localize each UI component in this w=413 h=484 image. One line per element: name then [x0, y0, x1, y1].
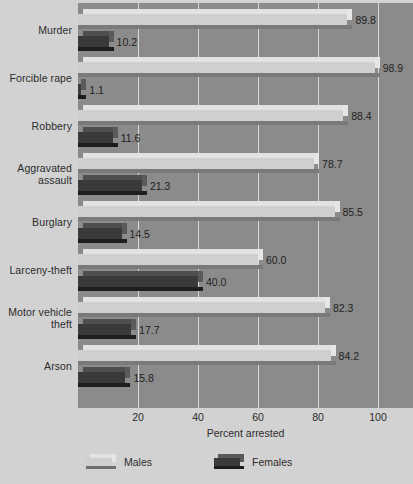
bar-top-face [83, 319, 136, 324]
bar-shadow [78, 361, 336, 365]
bar-shadow [78, 121, 348, 125]
category-label-line1: Forcible rape [0, 72, 72, 84]
bar-top-face [83, 9, 352, 14]
x-tick-label-80: 80 [298, 411, 338, 423]
x-tick-label-100: 100 [358, 411, 398, 423]
category-label-6: Motor vehicletheft [0, 306, 72, 330]
value-label-males-2: 88.4 [351, 111, 371, 122]
bar-top-face [83, 367, 130, 372]
bar-chart-figure: 89.810.298.91.188.411.678.721.385.514.56… [0, 0, 413, 484]
category-label-line1: Burglary [0, 216, 72, 228]
bar-shadow [78, 239, 127, 243]
bar-top-face [83, 297, 330, 302]
value-label-females-4: 14.5 [130, 229, 150, 240]
legend-label-females: Females [252, 456, 292, 468]
bar-top-face [83, 223, 127, 228]
bar-top-face [83, 249, 263, 254]
bar-females-3 [78, 180, 142, 191]
swatch-shadow [214, 466, 244, 469]
bar-end-cap [325, 297, 330, 308]
value-label-males-1: 98.9 [383, 63, 403, 74]
value-label-males-4: 85.5 [343, 207, 363, 218]
category-label-line2: assault [0, 174, 72, 186]
bar-end-cap [331, 345, 336, 356]
bar-shadow [78, 73, 380, 77]
bar-shadow [78, 95, 86, 99]
bar-shadow [78, 335, 136, 339]
bar-face [78, 302, 325, 313]
bar-males-6 [78, 302, 325, 313]
bar-males-5 [78, 254, 258, 265]
bar-males-2 [78, 110, 343, 121]
category-label-3: Aggravatedassault [0, 162, 72, 186]
bar-shadow [78, 287, 203, 291]
bar-end-cap [314, 153, 319, 164]
bar-top-face [83, 271, 203, 276]
value-label-males-7: 84.2 [339, 351, 359, 362]
bar-top-face [83, 201, 340, 206]
bar-shadow [78, 313, 330, 317]
bar-end-cap [347, 9, 352, 20]
bar-shadow [78, 191, 147, 195]
bar-top-face [83, 345, 336, 350]
bar-top-face [83, 105, 348, 110]
bar-females-6 [78, 324, 131, 335]
value-label-females-2: 11.6 [121, 133, 141, 144]
value-label-females-3: 21.3 [150, 181, 170, 192]
swatch-face [86, 458, 112, 466]
value-label-females-5: 40.0 [206, 277, 226, 288]
bar-end-cap [258, 249, 263, 260]
category-label-2: Robbery [0, 120, 72, 132]
bar-shadow [78, 169, 319, 173]
bar-end-cap [335, 201, 340, 212]
category-label-0: Murder [0, 24, 72, 36]
swatch-cap [240, 454, 244, 462]
swatch-shadow [86, 466, 116, 469]
bar-females-1 [78, 84, 81, 95]
bar-females-7 [78, 372, 125, 383]
bar-shadow [78, 47, 114, 51]
bar-face [78, 14, 347, 25]
bar-face [78, 350, 331, 361]
x-axis-title: Percent arrested [78, 427, 413, 439]
bar-males-7 [78, 350, 331, 361]
bar-males-0 [78, 14, 347, 25]
category-label-5: Larceny-theft [0, 264, 72, 276]
plot-area: 89.810.298.91.188.411.678.721.385.514.56… [78, 3, 413, 408]
bar-shadow [78, 25, 352, 29]
bar-shadow [78, 217, 340, 221]
category-label-line1: Robbery [0, 120, 72, 132]
bar-face [78, 180, 142, 191]
value-label-females-0: 10.2 [117, 37, 137, 48]
category-label-line1: Murder [0, 24, 72, 36]
value-label-males-5: 60.0 [266, 255, 286, 266]
bar-end-cap [131, 319, 136, 330]
bar-females-5 [78, 276, 198, 287]
category-label-line1: Larceny-theft [0, 264, 72, 276]
bar-face [78, 228, 122, 239]
bar-top-face [83, 153, 319, 158]
category-label-line2: theft [0, 318, 72, 330]
bar-end-cap [122, 223, 127, 234]
bar-top-face [83, 175, 147, 180]
value-label-females-7: 15.8 [133, 373, 153, 384]
category-label-4: Burglary [0, 216, 72, 228]
males-swatch [86, 458, 112, 466]
bar-face [78, 110, 343, 121]
bar-face [78, 372, 125, 383]
category-label-line1: Motor vehicle [0, 306, 72, 318]
females-swatch [214, 458, 240, 466]
value-label-females-6: 17.7 [139, 325, 159, 336]
bar-end-cap [125, 367, 130, 378]
bar-face [78, 276, 198, 287]
bar-face [78, 132, 113, 143]
bar-males-4 [78, 206, 335, 217]
bar-females-2 [78, 132, 113, 143]
bar-face [78, 206, 335, 217]
bar-end-cap [81, 79, 86, 90]
bar-top-face [83, 57, 380, 62]
category-label-1: Forcible rape [0, 72, 72, 84]
bar-face [78, 158, 314, 169]
bar-end-cap [109, 31, 114, 42]
bar-face [78, 36, 109, 47]
